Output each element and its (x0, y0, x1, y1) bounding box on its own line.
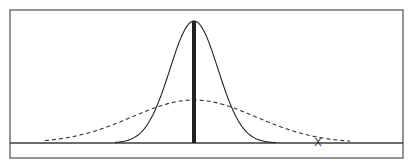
bell-curves-diagram: X (0, 0, 409, 165)
x-marker: X (314, 136, 322, 149)
diagram-frame (10, 10, 403, 158)
